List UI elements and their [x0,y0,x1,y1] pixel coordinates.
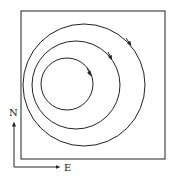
east-label: E [64,162,71,173]
inner-loop [41,58,93,110]
north-label: N [9,107,18,118]
middle-loop [32,41,120,129]
diagram-canvas: N E [0,0,172,183]
